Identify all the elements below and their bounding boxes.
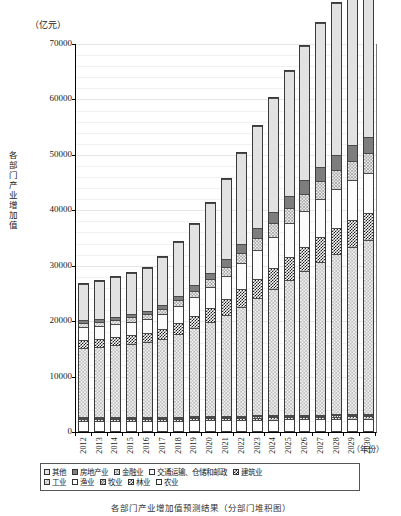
legend: 其他房地产业金融业交通运输、仓储和邮政建筑业 工业渔业牧业林业农业 [40,463,360,491]
bar-segment-fangdi [222,259,231,266]
legend-item[interactable]: 建筑业 [233,468,262,477]
bar-segment-qita [95,281,104,319]
x-axis-tick-label: 2018 [174,437,183,454]
legend-item[interactable]: 金融业 [114,468,143,477]
y-axis-tick-labels: 010000200003000040000500006000070000 [22,44,72,432]
legend-item[interactable]: 工业 [44,478,66,487]
bar-segment-fangdi [348,145,357,161]
bar-segment-jianzhu [269,268,278,289]
bar-segment-jinrong [332,170,341,189]
bar-stack [94,280,105,432]
bar-segment-jinrong [300,194,309,211]
bar-stack [284,70,295,432]
x-axis-unit-label: （年份） [352,443,384,454]
x-axis-tick [233,432,234,436]
bar-segment-nongye [348,419,357,431]
bar-segment-nongye [364,419,373,431]
bar-stack [315,22,326,432]
bar-segment-jianzhu [332,228,341,254]
bar-segment-gongye [237,307,246,416]
legend-row-2: 工业渔业牧业林业农业 [44,478,356,487]
legend-label: 渔业 [80,478,94,487]
bar-segment-fangdi [316,167,325,181]
bar-stack [347,0,358,432]
bar-segment-jiaotong [332,189,341,228]
x-axis-tick [280,432,281,436]
bar-stack [363,0,374,432]
bar-segment-jiaotong [316,199,325,237]
bar-segment-qita [158,257,167,305]
bar-segment-jianzhu [158,329,167,339]
legend-swatch-jinrong [114,469,120,475]
legend-item[interactable]: 渔业 [72,478,94,487]
bar-segment-gongye [253,298,262,416]
plot-area [75,44,377,433]
x-axis-tick-label: 2013 [95,437,104,454]
bar-segment-gongye [190,328,199,416]
bar-segment-nongye [95,421,104,431]
bar-segment-qita [222,179,231,260]
bar-segment-qita [127,273,136,314]
bar-segment-jianzhu [79,340,88,348]
legend-item[interactable]: 房地产业 [72,468,108,477]
bar-segment-qita [364,0,373,137]
bar-segment-jiaotong [190,297,199,316]
bar-segment-nongye [111,421,120,431]
legend-item[interactable]: 交通运输、仓储和邮政 [149,468,227,477]
bar-stack [331,2,342,432]
legend-label: 金融业 [122,468,143,477]
legend-label: 农业 [164,478,178,487]
bar-segment-gongye [79,348,88,418]
bar-segment-jianzhu [316,237,325,262]
x-axis-tick [75,432,76,436]
x-axis-tick-label: 2025 [284,437,293,454]
x-axis-tick [249,432,250,436]
legend-label: 房地产业 [80,468,108,477]
bar-segment-jianzhu [237,289,246,306]
x-axis-tick [343,432,344,436]
bar-segment-fangdi [300,180,309,193]
legend-label: 交通运输、仓储和邮政 [157,468,227,477]
bar-segment-jianzhu [190,316,199,328]
bar-segment-gongye [285,280,294,415]
y-axis-tick-label: 50000 [26,149,72,159]
legend-item[interactable]: 其他 [44,468,66,477]
x-axis-tick [186,432,187,436]
bar-segment-gongye [174,334,183,417]
x-axis-tick [312,432,313,436]
bar-segment-jiaotong [269,237,278,268]
bar-stack [221,178,232,432]
bar-segment-fangdi [332,155,341,170]
x-axis-tick-label: 2020 [205,437,214,454]
legend-label: 建筑业 [241,468,262,477]
bar-segment-fangdi [269,212,278,223]
y-axis-title-char: 业 [6,190,20,200]
x-axis-tick [359,432,360,436]
bar-segment-jianzhu [300,247,309,271]
bar-segment-jinrong [190,291,199,298]
bar-segment-jianzhu [222,299,231,314]
x-axis-tick-label: 2012 [79,437,88,454]
bar-segment-nongye [174,421,183,431]
y-axis-tick-label: 10000 [26,371,72,381]
bar-stack [189,223,200,432]
bar-segment-jinrong [206,279,215,287]
x-axis-tick-label: 2028 [332,437,341,454]
legend-item[interactable]: 牧业 [100,478,122,487]
bar-segment-nongye [79,421,88,431]
legend-item[interactable]: 农业 [156,478,178,487]
legend-label: 牧业 [108,478,122,487]
bar-segment-jianzhu [253,279,262,298]
legend-item[interactable]: 林业 [128,478,150,487]
x-axis-tick-label: 2026 [300,437,309,454]
x-axis-tick-label: 2024 [268,437,277,454]
bar-segment-jianzhu [206,308,215,322]
bar-segment-nongye [158,421,167,431]
bar-stack [299,45,310,433]
x-axis-tick-labels: 2012201320142015201620172018201920202021… [75,437,395,463]
x-axis-tick-label: 2017 [158,437,167,454]
bar-segment-qita [332,3,341,155]
bar-segment-nongye [332,419,341,431]
bar-stack [268,97,279,432]
bar-segment-jiaotong [222,276,231,299]
